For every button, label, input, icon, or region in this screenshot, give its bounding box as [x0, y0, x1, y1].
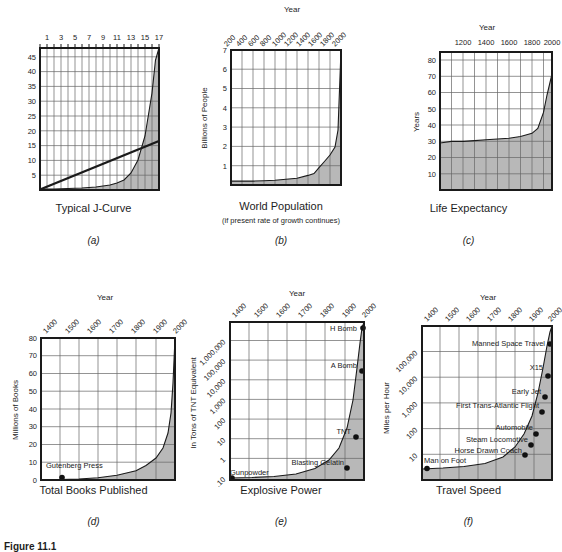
svg-text:60: 60	[29, 369, 37, 378]
svg-text:30: 30	[28, 97, 36, 106]
chart-b-plot: Year 200 400 600 800 1000 1200 1400 1600…	[187, 0, 375, 205]
panel-a: 135 7911 131517	[0, 20, 187, 255]
chart-c-title: Life Expectancy	[375, 202, 562, 214]
chart-d-svg: Year 1400 1500 1600 1700 1800 1900 2000	[0, 288, 187, 488]
svg-text:1,000: 1,000	[400, 400, 420, 420]
chart-f-xtick-labels: 1400 1500 1600 1700 1800 1900 2000	[422, 305, 562, 323]
chart-d-xtick-labels: 1400 1500 1600 1700 1800 1900 2000	[41, 317, 189, 335]
svg-text:5: 5	[73, 33, 77, 42]
chart-c-svg: Year 12001400 16001800 2000	[375, 12, 562, 207]
svg-text:2: 2	[223, 142, 227, 151]
chart-e-yaxis-title: In Tons of TNT Equivalent	[189, 356, 198, 448]
chart-b-xaxis-title: Year	[284, 5, 301, 14]
panel-b: Year 200 400 600 800 1000 1200 1400 1600…	[187, 0, 375, 255]
svg-text:3: 3	[59, 33, 63, 42]
chart-b-xtick-labels: 200 400 600 800 1000 1200 1400 1600 1800…	[222, 30, 348, 48]
chart-f-label-manned-space-travel: Manned Space Travel	[472, 339, 545, 348]
svg-text:10: 10	[428, 170, 436, 179]
svg-text:1800: 1800	[129, 317, 147, 335]
svg-text:1200: 1200	[455, 38, 472, 47]
chart-f-label-steam-locomotive: Steam Locomotive	[466, 435, 528, 444]
chart-f-marker-early-jet	[542, 394, 548, 400]
chart-f-yaxis-title: Miles per Hour	[382, 382, 391, 434]
svg-text:1900: 1900	[527, 305, 545, 323]
chart-e-xtick-labels: 1400 1500 1600 1700 1800 1900 2000	[230, 301, 378, 319]
svg-text:10: 10	[407, 451, 419, 463]
svg-text:1: 1	[45, 33, 49, 42]
chart-f-label-early-jet: Early Jet	[512, 387, 542, 396]
svg-text:40: 40	[28, 67, 36, 76]
svg-text:1900: 1900	[340, 301, 358, 319]
svg-text:2000: 2000	[330, 30, 348, 48]
chart-a-xtick-labels: 135 7911 131517	[45, 33, 163, 42]
svg-text:4: 4	[223, 104, 227, 113]
chart-e-letter: (e)	[187, 516, 375, 527]
chart-d-xaxis-title: Year	[97, 293, 114, 302]
chart-d-yaxis-title: Millions of Books	[11, 380, 20, 440]
svg-text:1800: 1800	[524, 38, 541, 47]
svg-text:80: 80	[29, 334, 37, 343]
chart-a-letter: (a)	[0, 235, 187, 246]
svg-text:1700: 1700	[296, 301, 314, 319]
chart-f-marker-man-on-foot	[424, 466, 430, 472]
svg-text:1500: 1500	[443, 305, 461, 323]
svg-text:7: 7	[223, 46, 227, 55]
chart-a-title: Typical J-Curve	[0, 202, 187, 214]
chart-f-label-automobile: Automobile	[495, 423, 533, 432]
chart-c-letter: (c)	[375, 235, 562, 246]
svg-text:50: 50	[29, 387, 37, 396]
svg-text:1600: 1600	[85, 317, 103, 335]
panel-f: Year 1400 1500 1600 1700 1800 1900 2000	[375, 288, 562, 543]
svg-text:15: 15	[28, 141, 36, 150]
chart-e-ytick-labels: .10 1 10 100 1,000 10,000 100,000 1,000,…	[197, 338, 227, 489]
svg-text:30: 30	[428, 137, 436, 146]
chart-f-marker-horse-drawn-coach	[522, 452, 528, 458]
chart-e-marker-blasting-gelatin	[344, 465, 350, 471]
svg-text:1600: 1600	[464, 305, 482, 323]
svg-text:1: 1	[223, 162, 227, 171]
svg-text:35: 35	[28, 82, 36, 91]
svg-text:1700: 1700	[485, 305, 503, 323]
chart-f-xaxis-title: Year	[480, 293, 497, 302]
svg-text:2000: 2000	[546, 305, 562, 323]
panel-c: Year 12001400 16001800 2000	[375, 12, 562, 255]
chart-b-yaxis-title: Billions of People	[200, 87, 209, 149]
chart-a-svg: 135 7911 131517	[0, 20, 187, 205]
svg-text:1600: 1600	[274, 301, 292, 319]
chart-f-marker-x15	[545, 373, 551, 379]
svg-text:1700: 1700	[107, 317, 125, 335]
chart-e-svg: Year 1400 1500 1600 1700 1800 1900 2000	[187, 288, 375, 488]
svg-text:40: 40	[29, 405, 37, 414]
svg-text:25: 25	[28, 112, 36, 121]
chart-b-letter: (b)	[187, 235, 375, 246]
panel-d: Year 1400 1500 1600 1700 1800 1900 2000	[0, 288, 187, 543]
svg-text:7: 7	[87, 33, 91, 42]
chart-b-title: World Population	[187, 200, 375, 212]
chart-b-subtitle: (if present rate of growth continues)	[187, 216, 375, 225]
chart-f-marker-steam-locomotive	[528, 442, 534, 448]
chart-d-plot: Year 1400 1500 1600 1700 1800 1900 2000	[0, 288, 187, 488]
chart-e-title: Explosive Power	[187, 484, 375, 496]
chart-d-annotation-gutenberg-label: Gutenberg Press	[46, 461, 103, 470]
svg-text:1400: 1400	[422, 305, 440, 323]
chart-f-label-horse-drawn-coach: Horse Drawn Coach	[454, 446, 522, 455]
svg-text:80: 80	[428, 56, 436, 65]
chart-c-xtick-labels: 12001400 16001800 2000	[455, 38, 561, 47]
svg-text:11: 11	[113, 33, 121, 42]
svg-text:5: 5	[223, 84, 227, 93]
chart-a-plot: 135 7911 131517	[0, 20, 187, 205]
chart-e-label-tnt: TNT	[336, 427, 351, 436]
svg-text:3: 3	[223, 123, 227, 132]
chart-f-title: Travel Speed	[375, 484, 562, 496]
svg-text:1500: 1500	[252, 301, 270, 319]
svg-text:13: 13	[127, 33, 135, 42]
chart-f-label-first-trans-atlantic-flight: First Trans-Atlantic Flight	[456, 401, 540, 410]
chart-d-letter: (d)	[0, 516, 187, 527]
chart-f-label-man-on-foot: Man on Foot	[424, 456, 467, 465]
svg-text:10: 10	[28, 156, 36, 165]
svg-text:1900: 1900	[151, 317, 169, 335]
chart-f-letter: (f)	[375, 516, 562, 527]
svg-text:1500: 1500	[63, 317, 81, 335]
svg-text:100,000: 100,000	[394, 349, 420, 375]
svg-text:30: 30	[29, 422, 37, 431]
